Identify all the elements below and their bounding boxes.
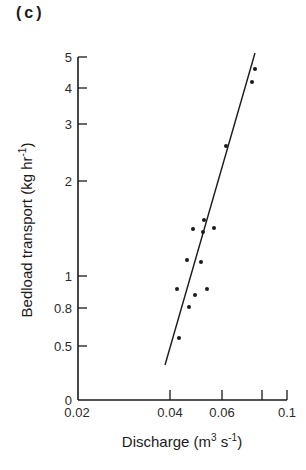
data-point [202,218,206,222]
data-point [175,287,179,291]
x-axis-ticks: 0.020.040.060.1 [64,390,296,420]
data-point [224,144,228,148]
data-point [199,260,203,264]
y-tick-label: 0 [65,393,72,408]
data-point [177,336,181,340]
data-point [191,227,195,231]
y-tick-label: 3 [65,117,72,132]
x-axis-title: Discharge (m3 s-1) [122,432,242,450]
data-points [175,67,257,340]
y-tick-label: 5 [65,50,72,65]
y-tick-label: 0.5 [54,339,72,354]
y-tick-label: 4 [65,81,72,96]
x-tick-label: 0.04 [157,405,182,420]
data-point [201,230,205,234]
x-tick-label: 0.06 [209,405,234,420]
data-point [185,258,189,262]
data-point [250,80,254,84]
data-point [187,305,191,309]
data-point [205,287,209,291]
scatter-chart: 0.020.040.060.1 00.50.812345 Discharge (… [0,0,306,470]
x-tick-label: 0.1 [278,405,296,420]
axes [78,57,287,400]
regression-line [165,53,255,365]
fitted-line [165,53,255,365]
data-point [253,67,257,71]
y-axis-ticks: 00.50.812345 [54,50,87,408]
data-point [193,293,197,297]
y-axis-title: Bedload transport (kg hr-1) [17,143,35,318]
data-point [212,226,216,230]
y-tick-label: 2 [65,174,72,189]
y-tick-label: 1 [65,269,72,284]
y-tick-label: 0.8 [54,301,72,316]
